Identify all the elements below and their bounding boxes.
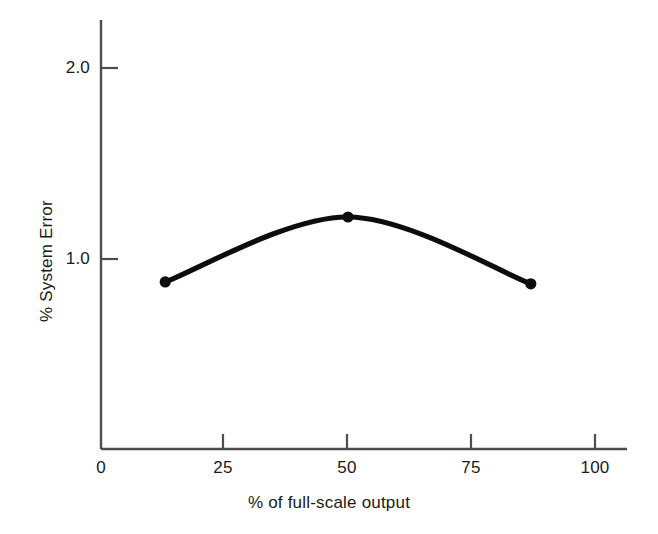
- xtick-label-100: 100: [581, 458, 610, 478]
- data-point-1: [342, 211, 353, 222]
- xtick-label-25: 25: [213, 458, 232, 478]
- y-axis-title: % System Error: [37, 200, 57, 322]
- data-point-2: [525, 278, 536, 289]
- data-point-markers: [160, 211, 537, 289]
- xtick-label-50: 50: [337, 458, 356, 478]
- plot-canvas: [0, 0, 658, 534]
- ytick-label-2.0: 2.0: [40, 58, 90, 78]
- xtick-label-0: 0: [96, 458, 106, 478]
- data-point-0: [160, 276, 171, 287]
- xtick-label-75: 75: [461, 458, 480, 478]
- x-axis-title: % of full-scale output: [0, 493, 658, 513]
- data-series-curve: [165, 217, 531, 284]
- chart-figure: 2.0 1.0 0 25 50 75 100 % System Error % …: [0, 0, 658, 534]
